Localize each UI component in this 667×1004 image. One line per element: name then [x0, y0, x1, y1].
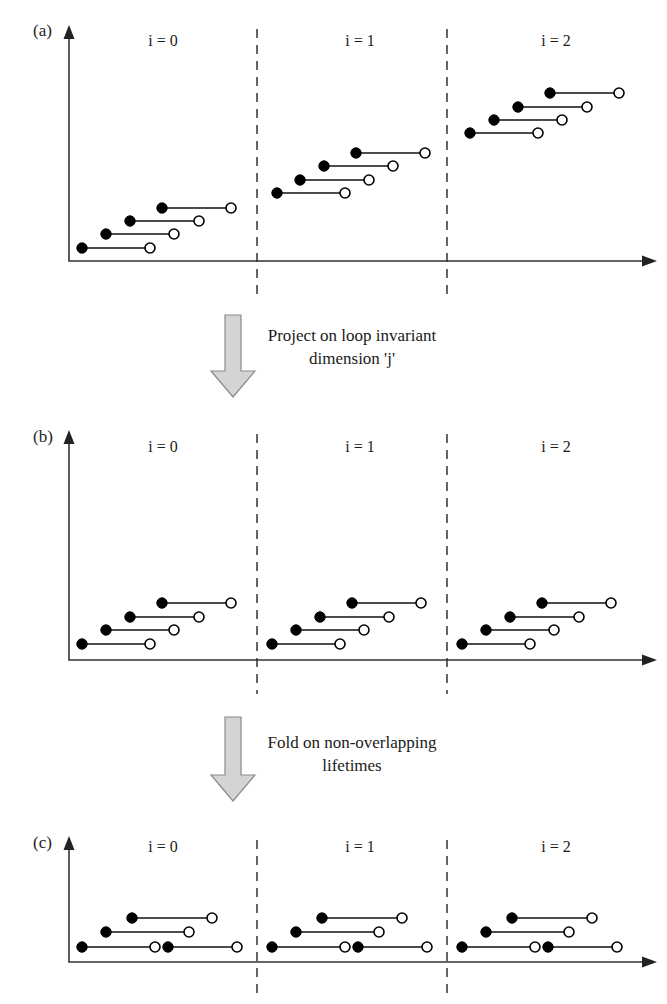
- lifetime-start-marker: [101, 927, 111, 937]
- lifetime-segment: [77, 639, 155, 649]
- lifetime-segment: [543, 942, 622, 952]
- section-a-0: i = 0: [77, 32, 236, 253]
- annotation-line1-project: Project on loop invariant: [268, 326, 437, 345]
- lifetime-segment: [537, 598, 616, 608]
- panel-label-a: (a): [33, 21, 52, 40]
- lifetime-segment: [317, 913, 407, 923]
- lifetime-segment: [267, 942, 350, 952]
- lifetime-start-marker: [489, 115, 499, 125]
- panel-label-b: (b): [33, 427, 53, 446]
- lifetime-end-marker: [582, 102, 592, 112]
- lifetime-start-marker: [351, 148, 361, 158]
- down-arrow-icon-fold: [211, 717, 255, 801]
- lifetime-start-marker: [507, 913, 517, 923]
- lifetime-segment: [101, 229, 179, 239]
- x-axis-arrowhead-c: [642, 957, 657, 968]
- section-a-2: i = 2: [465, 32, 624, 138]
- lifetime-start-marker: [77, 639, 87, 649]
- panel-b: (b)i = 0i = 1i = 2: [33, 427, 657, 694]
- lifetime-end-marker: [574, 612, 584, 622]
- lifetime-start-marker: [465, 128, 475, 138]
- lifetime-segment: [125, 612, 204, 622]
- lifetime-end-marker: [184, 927, 194, 937]
- lifetime-segment: [507, 913, 597, 923]
- section-label-b-0: i = 0: [148, 438, 177, 455]
- lifetime-start-marker: [77, 243, 87, 253]
- lifetime-segment: [291, 625, 369, 635]
- lifetime-segment: [457, 639, 535, 649]
- y-axis-arrowhead-b: [64, 430, 75, 444]
- lifetime-segment: [101, 625, 179, 635]
- lifetime-start-marker: [267, 639, 277, 649]
- lifetime-start-marker: [543, 942, 553, 952]
- lifetime-start-marker: [127, 913, 137, 923]
- lifetime-end-marker: [533, 128, 543, 138]
- lifetime-transformation-figure: (a)i = 0i = 1i = 2(b)i = 0i = 1i = 2(c)i…: [0, 0, 667, 1004]
- lifetime-start-marker: [291, 625, 301, 635]
- lifetime-segment: [489, 115, 567, 125]
- lifetime-segment: [353, 942, 432, 952]
- lifetime-end-marker: [226, 203, 236, 213]
- lifetime-end-marker: [207, 913, 217, 923]
- section-label-c-1: i = 1: [345, 838, 374, 855]
- lifetime-end-marker: [422, 942, 432, 952]
- lifetime-segment: [157, 598, 236, 608]
- annotation-line2-fold: lifetimes: [322, 756, 381, 775]
- lifetime-segment: [465, 128, 543, 138]
- lifetime-start-marker: [101, 625, 111, 635]
- lifetime-segment: [295, 175, 374, 185]
- lifetime-end-marker: [194, 216, 204, 226]
- lifetime-start-marker: [315, 612, 325, 622]
- section-label-c-2: i = 2: [541, 838, 570, 855]
- lifetime-start-marker: [291, 927, 301, 937]
- lifetime-end-marker: [564, 927, 574, 937]
- lifetime-segment: [267, 639, 345, 649]
- lifetime-end-marker: [525, 639, 535, 649]
- lifetime-start-marker: [457, 942, 467, 952]
- lifetime-start-marker: [537, 598, 547, 608]
- panels-layer: (a)i = 0i = 1i = 2(b)i = 0i = 1i = 2(c)i…: [33, 21, 657, 996]
- lifetime-segment: [457, 942, 540, 952]
- annotations-layer: Project on loop invariantdimension 'j'Fo…: [211, 315, 437, 801]
- lifetime-start-marker: [272, 188, 282, 198]
- lifetime-start-marker: [157, 203, 167, 213]
- lifetime-end-marker: [364, 175, 374, 185]
- lifetime-start-marker: [457, 639, 467, 649]
- lifetime-start-marker: [125, 216, 135, 226]
- lifetime-start-marker: [481, 625, 491, 635]
- lifetime-end-marker: [374, 927, 384, 937]
- lifetime-end-marker: [557, 115, 567, 125]
- annotation-project: Project on loop invariantdimension 'j': [211, 315, 437, 397]
- lifetime-start-marker: [347, 598, 357, 608]
- x-axis-arrowhead-a: [642, 256, 657, 267]
- lifetime-end-marker: [384, 612, 394, 622]
- lifetime-segment: [481, 625, 559, 635]
- y-axis-arrowhead-c: [64, 836, 75, 850]
- lifetime-end-marker: [226, 598, 236, 608]
- lifetime-segment: [125, 216, 204, 226]
- annotation-line2-project: dimension 'j': [309, 349, 395, 368]
- lifetime-start-marker: [513, 102, 523, 112]
- section-label-a-0: i = 0: [148, 32, 177, 49]
- lifetime-end-marker: [606, 598, 616, 608]
- lifetime-segment: [481, 927, 574, 937]
- lifetime-end-marker: [340, 188, 350, 198]
- panel-a: (a)i = 0i = 1i = 2: [33, 21, 657, 295]
- lifetime-segment: [291, 927, 384, 937]
- lifetime-segment: [347, 598, 426, 608]
- lifetime-segment: [101, 927, 194, 937]
- lifetime-segment: [513, 102, 592, 112]
- section-c-1: i = 1: [267, 838, 432, 952]
- lifetime-segment: [505, 612, 584, 622]
- lifetime-start-marker: [319, 161, 329, 171]
- lifetime-start-marker: [125, 612, 135, 622]
- lifetime-start-marker: [353, 942, 363, 952]
- lifetime-end-marker: [150, 942, 160, 952]
- section-label-a-1: i = 1: [345, 32, 374, 49]
- section-a-1: i = 1: [272, 32, 430, 198]
- down-arrow-icon-project: [211, 315, 255, 397]
- lifetime-end-marker: [388, 161, 398, 171]
- lifetime-end-marker: [397, 913, 407, 923]
- lifetime-end-marker: [194, 612, 204, 622]
- lifetime-segment: [315, 612, 394, 622]
